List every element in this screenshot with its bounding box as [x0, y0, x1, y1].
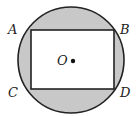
label-vertex-b: B — [119, 22, 130, 37]
label-center: O — [57, 53, 68, 68]
label-vertex-c: C — [8, 85, 18, 100]
label-vertex-d: D — [119, 85, 131, 100]
label-vertex-a: A — [7, 22, 17, 37]
inscribed-rectangle-diagram: O A B C D — [0, 0, 136, 116]
center-point — [71, 59, 75, 63]
